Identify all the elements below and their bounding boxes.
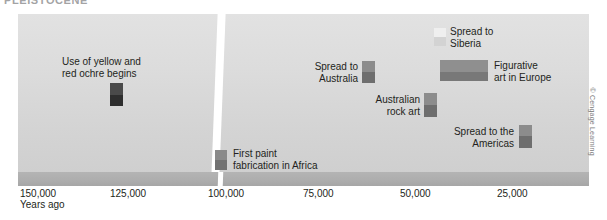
event-bar-first-paint <box>215 150 227 170</box>
axis-tick-label: 125,000 <box>110 188 146 199</box>
event-caption-americas: Spread to the Americas <box>428 126 514 149</box>
event-bar-figurative-europe <box>440 60 488 81</box>
event-caption-australia: Spread to Australia <box>290 61 358 84</box>
axis-strip <box>18 172 589 186</box>
publisher-credit: © Cengage Learning <box>589 88 596 160</box>
axis-tick-label: 50,000 <box>400 188 431 199</box>
event-bar-siberia <box>434 28 446 46</box>
event-bar-ochre <box>110 83 123 106</box>
event-caption-rock-art: Australian rock art <box>352 94 420 117</box>
axis-tick-label: 150,000 <box>20 188 56 199</box>
axis-tick-label: 100,000 <box>208 188 244 199</box>
event-bar-rock-art <box>424 93 437 117</box>
event-bar-americas <box>519 125 532 148</box>
axis-unit-label: Years ago <box>20 199 65 210</box>
event-caption-figurative-europe: Figurative art in Europe <box>494 60 584 83</box>
event-bar-australia <box>362 61 375 83</box>
axis-tick-label: 25,000 <box>497 188 528 199</box>
epoch-title: PLEISTOCENE <box>4 0 88 6</box>
axis-tick-label: 75,000 <box>303 188 334 199</box>
event-caption-siberia: Spread to Siberia <box>450 26 530 49</box>
timeline-figure: PLEISTOCENE 150,000125,000100,00075,0005… <box>0 0 607 220</box>
axis-strip-break <box>218 172 223 186</box>
event-caption-first-paint: First paint fabrication in Africa <box>233 148 363 171</box>
event-caption-ochre: Use of yellow and red ochre begins <box>62 56 182 79</box>
